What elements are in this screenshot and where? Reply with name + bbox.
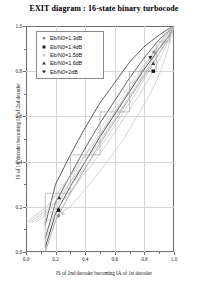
x-tick bbox=[41, 252, 42, 254]
x-tick-label: 1.0 bbox=[162, 256, 186, 262]
y-axis-label: IS of 1st decoder becoming IA of 2nd dec… bbox=[15, 61, 21, 201]
y-tick bbox=[23, 252, 26, 253]
y-tick bbox=[24, 184, 26, 185]
y-tick bbox=[24, 229, 26, 230]
legend-item: Eb/N0=2dB bbox=[38, 68, 101, 76]
legend: Eb/N0=1.3dBEb/N0=1.4dBEb/N0=1.5dBEb/N0=1… bbox=[36, 31, 104, 79]
x-tick-label: 0.0 bbox=[14, 256, 38, 262]
x-tick bbox=[56, 252, 57, 255]
x-tick bbox=[100, 252, 101, 254]
data-point-marker bbox=[152, 50, 155, 53]
data-point-marker bbox=[57, 214, 60, 217]
x-tick-label: 0.2 bbox=[44, 256, 68, 262]
legend-label: Eb/N0=1.4dB bbox=[50, 44, 82, 50]
data-point-marker bbox=[152, 70, 155, 73]
data-point-marker bbox=[57, 208, 60, 211]
legend-label: Eb/N0=1.6dB bbox=[50, 60, 82, 66]
y-tick bbox=[23, 26, 26, 27]
x-tick bbox=[85, 252, 86, 255]
y-tick bbox=[24, 94, 26, 95]
legend-marker-square-icon bbox=[38, 43, 50, 51]
x-axis-label: IS of 2nd decoder becoming IA of 1st dec… bbox=[0, 270, 208, 276]
legend-label: Eb/N0=1.3dB bbox=[50, 35, 82, 41]
x-tick bbox=[130, 252, 131, 254]
marker-glyph bbox=[43, 37, 46, 40]
x-tick-label: 0.8 bbox=[132, 256, 156, 262]
marker-glyph bbox=[43, 53, 46, 56]
x-tick bbox=[26, 252, 27, 255]
marker-glyph bbox=[43, 45, 46, 48]
legend-marker-tri-dn-icon bbox=[38, 68, 50, 76]
legend-item: Eb/N0=1.4dB bbox=[38, 42, 101, 50]
x-tick-label: 0.6 bbox=[103, 256, 127, 262]
y-tick bbox=[23, 207, 26, 208]
data-point-marker bbox=[61, 212, 64, 215]
x-tick bbox=[144, 252, 145, 255]
y-tick bbox=[24, 139, 26, 140]
y-tick bbox=[24, 49, 26, 50]
legend-item: Eb/N0=1.6dB bbox=[38, 59, 101, 67]
x-tick bbox=[70, 252, 71, 254]
legend-item: Eb/N0=1.3dB bbox=[38, 34, 101, 42]
legend-label: Eb/N0=2dB bbox=[50, 69, 78, 75]
x-tick bbox=[115, 252, 116, 255]
y-tick bbox=[23, 162, 26, 163]
marker-glyph bbox=[42, 70, 46, 73]
marker-glyph bbox=[42, 62, 46, 65]
y-tick-label: 0.2 bbox=[4, 204, 22, 210]
legend-label: Eb/N0=1.5dB bbox=[50, 52, 82, 58]
legend-marker-circle-open-icon bbox=[38, 51, 50, 59]
y-tick-label: 0.0 bbox=[4, 249, 22, 255]
exit-diagram-figure: EXIT diagram : 16-state binary turbocode… bbox=[0, 0, 208, 294]
legend-marker-tri-up-icon bbox=[38, 59, 50, 67]
x-tick bbox=[159, 252, 160, 254]
y-tick bbox=[23, 116, 26, 117]
y-tick bbox=[23, 71, 26, 72]
chart-title: EXIT diagram : 16-state binary turbocode bbox=[0, 4, 208, 13]
x-tick bbox=[174, 252, 175, 255]
x-tick-label: 0.4 bbox=[73, 256, 97, 262]
legend-item: Eb/N0=1.5dB bbox=[38, 51, 101, 59]
legend-marker-circle-icon bbox=[38, 34, 50, 42]
y-tick-label: 1.0 bbox=[4, 23, 22, 29]
